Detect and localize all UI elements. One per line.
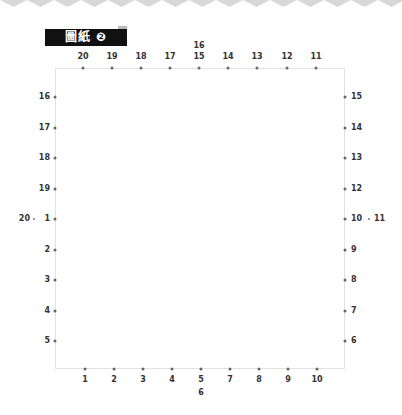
point-dot [256,67,259,70]
point-label: 17 [164,52,175,62]
point-dot [54,218,57,221]
point-label: 5 [198,375,204,385]
point-label: 9 [351,245,357,255]
point-dot [198,67,201,70]
point-dot [344,279,347,282]
title-number: ❷ [96,30,107,44]
point-dot [287,368,290,371]
point-label: 1 [44,214,50,224]
point-label: 1 [82,375,88,385]
point-label: 14 [351,123,362,133]
point-label: 3 [44,275,50,285]
point-dot [54,249,57,252]
point-dot [258,368,261,371]
point-label: 7 [351,306,357,316]
point-label: 3 [140,375,146,385]
point-dot [54,188,57,191]
point-dot [344,249,347,252]
point-label: 17 [39,123,50,133]
point-dot [229,368,232,371]
point-label: 4 [169,375,175,385]
point-dot [344,340,347,343]
point-dot [344,310,347,313]
point-label: 13 [251,52,262,62]
point-dot [54,96,57,99]
point-label: 16 [193,41,204,51]
point-dot [344,96,347,99]
drawing-frame [55,68,345,369]
point-label: 20 [19,214,30,224]
point-label: 2 [44,245,50,255]
point-label: 9 [285,375,291,385]
point-label: 11 [374,214,385,224]
point-dot [113,368,116,371]
point-label: 10 [311,375,322,385]
point-dot [344,218,347,221]
point-label: 7 [227,375,233,385]
point-dot [169,67,172,70]
point-label: 11 [310,52,321,62]
zigzag-border [0,0,402,10]
point-label: 20 [77,52,88,62]
point-label: 16 [39,92,50,102]
point-dot [54,310,57,313]
point-label: 18 [135,52,146,62]
point-dot [84,368,87,371]
point-label: 18 [39,153,50,163]
point-label: 13 [351,153,362,163]
point-label: 19 [106,52,117,62]
point-dot [140,67,143,70]
point-dot [54,157,57,160]
point-dot [344,127,347,130]
point-label: 4 [44,306,50,316]
point-dot [316,368,319,371]
point-label: 8 [256,375,262,385]
point-dot [171,368,174,371]
point-label: 8 [351,275,357,285]
point-dot [286,67,289,70]
point-dot [54,340,57,343]
point-dot [200,368,203,371]
title-text: 圖紙 [65,30,91,44]
point-label: 15 [193,52,204,62]
point-label: 19 [39,184,50,194]
title-badge: 圖紙 ❷ [45,29,127,46]
point-dot [344,188,347,191]
point-dot [54,279,57,282]
point-dot [111,67,114,70]
point-dot [227,67,230,70]
point-dot [142,368,145,371]
point-dot [54,127,57,130]
point-label: 15 [351,92,362,102]
point-label: 2 [111,375,117,385]
point-dot [315,67,318,70]
point-dot [344,157,347,160]
point-label: 6 [351,336,357,346]
point-label: 10 [351,214,362,224]
point-label: 14 [222,52,233,62]
point-label: 6 [198,388,204,398]
separator-dot [33,218,35,220]
point-label: 12 [351,184,362,194]
separator-dot [368,218,370,220]
point-label: 5 [44,336,50,346]
point-dot [82,67,85,70]
point-label: 12 [281,52,292,62]
